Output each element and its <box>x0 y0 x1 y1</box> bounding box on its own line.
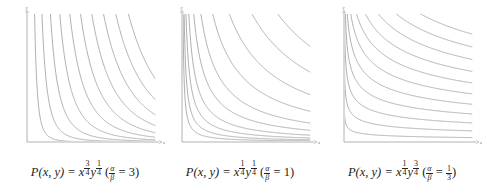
level-curve <box>344 0 472 71</box>
level-curve <box>27 0 155 142</box>
exp-x-den: 4 <box>240 169 244 177</box>
exp-y-den: 4 <box>97 169 101 177</box>
exp-y-den: 4 <box>252 169 256 177</box>
level-curve-plot: xy <box>322 0 482 160</box>
level-curve <box>344 0 472 59</box>
x-axis-arrow-icon <box>476 141 479 144</box>
x-axis-arrow-icon <box>314 141 317 144</box>
level-curve <box>27 0 155 140</box>
level-curve <box>27 0 155 141</box>
level-curve <box>182 0 310 123</box>
level-curves <box>182 0 310 141</box>
y-axis-label: y <box>25 5 29 10</box>
exp-x-den: 4 <box>85 169 89 177</box>
caption-lhs: P(x, y) = x <box>31 165 85 179</box>
chart-caption: P(x, y) = x14y34 (αβ = 13) <box>322 160 482 182</box>
y-axis-label: y <box>180 5 184 10</box>
level-curves <box>344 0 472 138</box>
ratio-den: β <box>427 174 431 182</box>
level-curves <box>27 0 155 142</box>
level-curve <box>182 0 310 72</box>
ratio-value: 1 <box>284 165 290 179</box>
chart-panel-alpha-beta-1: xy P(x, y) = x14y14 (αβ = 1) <box>160 0 320 195</box>
caption-lhs: P(x, y) = x <box>348 165 402 179</box>
level-curve <box>27 0 155 133</box>
level-curve <box>27 0 155 115</box>
level-curve <box>344 0 472 123</box>
level-curve <box>182 0 310 135</box>
chart-caption: P(x, y) = x14y14 (αβ = 1) <box>160 160 320 182</box>
chart-panel-alpha-beta-3: xy P(x, y) = x34y14 (αβ = 3) <box>5 0 165 195</box>
level-curve-plot: xy <box>5 0 165 160</box>
level-curve <box>344 107 472 138</box>
x-axis-label: x <box>317 140 320 145</box>
caption-lhs: P(x, y) = x <box>186 165 240 179</box>
level-curve <box>182 0 310 46</box>
ratio-value-den: 3 <box>447 174 451 182</box>
exp-y-den: 4 <box>414 169 418 177</box>
ratio-den: β <box>265 174 269 182</box>
level-curve-plot: xy <box>160 0 320 160</box>
level-curve <box>344 0 472 34</box>
y-axis-label: y <box>342 5 346 10</box>
exp-x-den: 4 <box>403 169 407 177</box>
level-curve <box>27 0 155 126</box>
x-axis-label: x <box>479 140 482 145</box>
ratio-den: β <box>110 174 114 182</box>
level-curve <box>27 0 155 142</box>
chart-panel-alpha-beta-one-third: xy P(x, y) = x14y34 (αβ = 13) <box>322 0 482 195</box>
ratio-value: 3 <box>129 165 135 179</box>
level-curve <box>344 0 472 47</box>
level-curve <box>182 0 310 138</box>
level-curve <box>344 0 472 114</box>
level-curve <box>344 54 472 131</box>
chart-caption: P(x, y) = x34y14 (αβ = 3) <box>5 160 165 182</box>
